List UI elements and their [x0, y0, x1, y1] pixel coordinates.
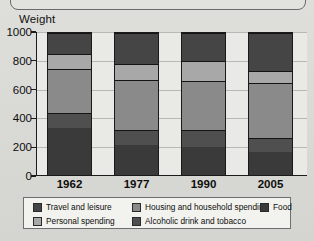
- bar-1977[interactable]: [114, 32, 159, 176]
- bar-segment[interactable]: [182, 147, 225, 175]
- y-tick-label: 800: [0, 55, 32, 67]
- legend-label: Housing and household spending: [145, 202, 268, 212]
- bar-segment[interactable]: [48, 33, 91, 54]
- top-frame-decoration: [10, 0, 306, 10]
- bar-segment[interactable]: [249, 33, 292, 71]
- bar-segment[interactable]: [182, 130, 225, 146]
- bar-segment[interactable]: [115, 130, 158, 146]
- legend-item[interactable]: Personal spending: [33, 216, 115, 226]
- legend-swatch: [33, 217, 42, 226]
- bar-segment[interactable]: [115, 80, 158, 130]
- bar-2005[interactable]: [248, 32, 293, 176]
- bar-segment[interactable]: [249, 71, 292, 84]
- legend-item[interactable]: Food: [260, 202, 292, 212]
- x-tick-label-1962: 1962: [40, 178, 100, 190]
- bar-segment[interactable]: [115, 33, 158, 64]
- legend-swatch: [260, 203, 269, 212]
- bar-segment[interactable]: [48, 128, 91, 175]
- chart-figure: Weight 02004006008001000 196219771990200…: [0, 0, 314, 241]
- bar-segment[interactable]: [249, 138, 292, 152]
- bar-segment[interactable]: [182, 33, 225, 61]
- legend-item[interactable]: Housing and household spending: [132, 202, 268, 212]
- legend-item[interactable]: Travel and leisure: [33, 202, 112, 212]
- x-tick-label-1990: 1990: [174, 178, 234, 190]
- bar-segment[interactable]: [182, 61, 225, 80]
- bar-segment[interactable]: [115, 64, 158, 80]
- legend-label: Alcoholic drink and tobacco: [145, 216, 246, 226]
- bar-segment[interactable]: [48, 54, 91, 68]
- bar-segment[interactable]: [48, 113, 91, 129]
- legend-swatch: [33, 203, 42, 212]
- legend-swatch: [132, 217, 141, 226]
- chart-legend: Travel and leisureHousing and household …: [23, 197, 291, 229]
- x-tick-label-1977: 1977: [107, 178, 167, 190]
- bar-segment[interactable]: [182, 81, 225, 131]
- legend-label: Travel and leisure: [46, 202, 112, 212]
- legend-label: Personal spending: [46, 216, 115, 226]
- y-tick-label: 200: [0, 141, 32, 153]
- legend-swatch: [132, 203, 141, 212]
- x-tick-label-2005: 2005: [241, 178, 301, 190]
- legend-item[interactable]: Alcoholic drink and tobacco: [132, 216, 246, 226]
- y-tick-label: 0: [0, 170, 32, 182]
- bar-segment[interactable]: [249, 83, 292, 138]
- legend-label: Food: [273, 202, 292, 212]
- bar-segment[interactable]: [48, 69, 91, 113]
- y-tick-label: 600: [0, 84, 32, 96]
- bar-1962[interactable]: [47, 32, 92, 176]
- bar-segment[interactable]: [249, 152, 292, 175]
- y-axis-title: Weight: [19, 13, 55, 25]
- y-tick-label: 400: [0, 112, 32, 124]
- y-tick-label: 1000: [0, 26, 32, 38]
- plot-area-wrapper: 02004006008001000 1962197719902005: [0, 28, 314, 180]
- bar-1990[interactable]: [181, 32, 226, 176]
- bar-segment[interactable]: [115, 145, 158, 175]
